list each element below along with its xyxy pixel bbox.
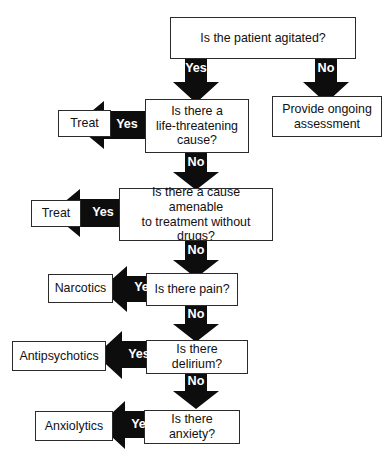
- node-is-cause-amenable[interactable]: Is there a cause amenable to treatment w…: [119, 188, 273, 241]
- node-label: Is there delirium?: [150, 342, 244, 371]
- node-narcotics[interactable]: Narcotics: [48, 274, 113, 303]
- arrow-agitated-yes: [172, 56, 220, 104]
- node-treat-1[interactable]: Treat: [58, 110, 111, 137]
- node-label: Treat: [35, 206, 77, 221]
- node-is-there-anxiety[interactable]: Is there anxiety?: [144, 410, 240, 444]
- node-is-there-delirium[interactable]: Is there delirium?: [146, 340, 248, 374]
- node-label: Is there a cause amenable to treatment w…: [123, 185, 269, 244]
- node-provide-ongoing-assessment[interactable]: Provide ongoing assessment: [272, 96, 382, 137]
- arrow-pain-no: [172, 303, 220, 343]
- node-antipsychotics[interactable]: Antipsychotics: [12, 341, 106, 371]
- node-label: Antipsychotics: [16, 349, 102, 364]
- arrow-delirium-no: [172, 370, 220, 410]
- node-label: Is there anxiety?: [148, 412, 236, 441]
- node-is-life-threatening-cause[interactable]: Is there a life-threatening cause?: [145, 99, 249, 153]
- node-anxiolytics[interactable]: Anxiolytics: [35, 411, 113, 441]
- node-is-patient-agitated[interactable]: Is the patient agitated?: [170, 17, 356, 59]
- node-is-there-pain[interactable]: Is there pain?: [146, 273, 238, 306]
- node-label: Provide ongoing assessment: [276, 102, 378, 131]
- node-treat-2[interactable]: Treat: [31, 200, 81, 227]
- node-label: Is there a life-threatening cause?: [149, 104, 245, 148]
- node-label: Anxiolytics: [39, 419, 109, 434]
- node-label: Is there pain?: [150, 282, 234, 297]
- node-label: Is the patient agitated?: [174, 31, 352, 46]
- node-label: Narcotics: [52, 281, 109, 296]
- node-label: Treat: [62, 116, 107, 131]
- flowchart-canvas: Yes No Yes No Yes No Yes No Yes No Yes I…: [0, 0, 392, 461]
